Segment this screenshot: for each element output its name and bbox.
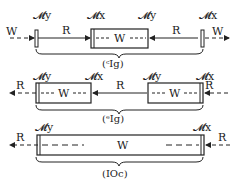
brace: [36, 49, 203, 58]
segment-label: R: [116, 79, 125, 92]
diagram-row-1: W W 𝓜y 𝓜x 𝓜y 𝓜x R W R (ᶜIg): [6, 9, 229, 69]
label-mx: 𝓜x: [193, 121, 212, 134]
label-mx: 𝓜x: [85, 70, 104, 83]
right-arrow-label: W: [212, 25, 224, 38]
brace: [36, 157, 203, 166]
label-mx: 𝓜x: [199, 9, 218, 22]
segment-label: W: [58, 87, 70, 100]
interface-diagrams: W W 𝓜y 𝓜x 𝓜y 𝓜x R W R (ᶜIg) R R 𝓜y 𝓜x 𝓜y…: [0, 0, 243, 186]
segment-label: W: [117, 139, 129, 152]
label-my: 𝓜y: [33, 9, 52, 22]
diagram-row-3: R R 𝓜y 𝓜x W (IOc): [10, 121, 230, 179]
label-my: 𝓜y: [35, 121, 54, 134]
left-arrow-label: R: [16, 79, 25, 92]
brace-label: (ᶜIg): [102, 58, 124, 69]
brace-label: (ᵉIg): [102, 113, 124, 124]
segment-label: R: [62, 24, 71, 37]
label-my: 𝓜y: [138, 9, 157, 22]
right-arrow-label: R: [218, 131, 227, 144]
label-mx: 𝓜x: [87, 9, 106, 22]
segment-label: R: [172, 24, 181, 37]
segment-label: W: [169, 87, 181, 100]
left-arrow-label: W: [6, 25, 18, 38]
label-my: 𝓜y: [33, 70, 52, 83]
label-mx: 𝓜x: [196, 70, 215, 83]
thin-interface: [201, 30, 204, 47]
thin-interface: [35, 30, 38, 47]
diagram-row-2: R R 𝓜y 𝓜x 𝓜y 𝓜x W R W (ᵉIg): [10, 70, 228, 124]
segment-label: W: [114, 32, 126, 45]
left-arrow-label: R: [16, 131, 25, 144]
brace-label: (IOc): [102, 168, 128, 179]
label-my: 𝓜y: [143, 70, 162, 83]
